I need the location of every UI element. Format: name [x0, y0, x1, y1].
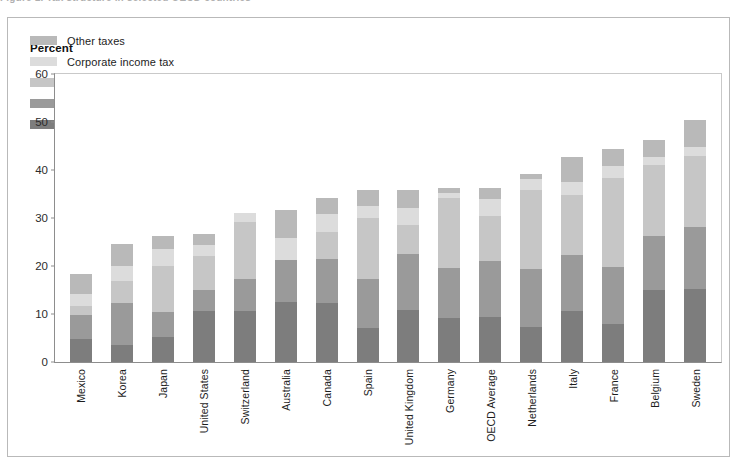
- x-axis-tick-label: Sweden: [690, 369, 702, 408]
- x-axis-label-slot: Sweden: [675, 365, 716, 464]
- stacked-bar[interactable]: [193, 234, 215, 362]
- bar-segment: [275, 210, 297, 238]
- bar-segment: [193, 290, 215, 312]
- bar-segment: [684, 147, 706, 156]
- bar-segment: [152, 266, 174, 312]
- stacked-bar[interactable]: [438, 188, 460, 362]
- bar-segment: [561, 195, 583, 255]
- bar-segment: [520, 327, 542, 362]
- x-axis-label-slot: Switzerland: [224, 365, 265, 464]
- bar-slot: [592, 74, 633, 362]
- figure-frame: Percent Other taxesCorporate income taxS…: [7, 17, 730, 457]
- bar-slot: [674, 74, 715, 362]
- x-axis-tick-label: France: [608, 369, 620, 402]
- stacked-bar[interactable]: [152, 236, 174, 362]
- x-axis-tick-label: OECD Average: [485, 369, 497, 442]
- legend-item: Corporate income tax: [30, 51, 212, 72]
- stacked-bar[interactable]: [275, 210, 297, 362]
- bar-slot: [470, 74, 511, 362]
- x-axis-label-slot: Belgium: [634, 365, 675, 464]
- legend-label: Corporate income tax: [67, 56, 174, 68]
- legend-item: Other taxes: [30, 30, 212, 51]
- bar-slot: [633, 74, 674, 362]
- bar-segment: [316, 198, 338, 214]
- legend-swatch-icon: [30, 99, 57, 108]
- stacked-bar[interactable]: [111, 244, 133, 362]
- x-axis-tick-label: Japan: [157, 369, 169, 398]
- bar-segment: [561, 255, 583, 311]
- bar-segment: [111, 303, 133, 345]
- bar-segment: [643, 157, 665, 166]
- x-axis-labels: MexicoKoreaJapanUnited StatesSwitzerland…: [54, 365, 722, 464]
- bar-segment: [234, 222, 256, 280]
- stacked-bar[interactable]: [70, 274, 92, 362]
- bar-segment: [520, 179, 542, 191]
- bar-segment: [684, 227, 706, 289]
- bar-segment: [111, 244, 133, 266]
- chart-page: Figure 1. Tax structure in selected OECD…: [0, 0, 737, 464]
- bar-slot: [265, 74, 306, 362]
- x-axis-tick-label: Germany: [444, 369, 456, 413]
- bar-segment: [684, 156, 706, 228]
- x-axis-tick-label: Switzerland: [239, 369, 251, 424]
- bar-slot: [306, 74, 347, 362]
- stacked-bar[interactable]: [561, 157, 583, 362]
- stacked-bar[interactable]: [479, 188, 501, 362]
- x-axis-label-slot: Canada: [306, 365, 347, 464]
- bar-segment: [152, 249, 174, 266]
- bar-segment: [520, 190, 542, 269]
- stacked-bar[interactable]: [520, 174, 542, 362]
- plot-area: 0102030405060: [54, 73, 722, 363]
- bar-segment: [357, 279, 379, 328]
- stacked-bar[interactable]: [684, 120, 706, 362]
- bar-segment: [479, 199, 501, 216]
- bar-segment: [397, 225, 419, 254]
- stacked-bar[interactable]: [316, 198, 338, 362]
- bar-segment: [438, 198, 460, 268]
- x-axis-label-slot: Japan: [142, 365, 183, 464]
- x-axis-label-slot: Netherlands: [511, 365, 552, 464]
- bar-segment: [111, 281, 133, 303]
- bar-segment: [275, 302, 297, 362]
- bar-segment: [479, 317, 501, 362]
- stacked-bar[interactable]: [234, 213, 256, 362]
- bar-segment: [234, 279, 256, 310]
- x-axis-label-slot: Italy: [552, 365, 593, 464]
- bar-segment: [602, 166, 624, 179]
- bar-segment: [193, 245, 215, 256]
- bar-group: [55, 74, 721, 362]
- figure-title-text: Figure 1. Tax structure in selected OECD…: [0, 0, 737, 2]
- bar-segment: [316, 214, 338, 231]
- bar-segment: [70, 294, 92, 306]
- stacked-bar[interactable]: [643, 140, 665, 362]
- stacked-bar[interactable]: [602, 149, 624, 362]
- bar-segment: [643, 165, 665, 236]
- bar-slot: [61, 74, 102, 362]
- x-axis-tick-label: Canada: [321, 369, 333, 406]
- bar-slot: [184, 74, 225, 362]
- bar-segment: [397, 254, 419, 310]
- bar-segment: [152, 337, 174, 362]
- bar-segment: [438, 318, 460, 362]
- figure-title-cropped: Figure 1. Tax structure in selected OECD…: [0, 0, 737, 12]
- bar-segment: [152, 312, 174, 338]
- bar-segment: [397, 208, 419, 224]
- x-axis-label-slot: OECD Average: [470, 365, 511, 464]
- x-axis-label-slot: Mexico: [60, 365, 101, 464]
- bar-slot: [511, 74, 552, 362]
- x-axis-tick-label: Italy: [567, 369, 579, 389]
- bar-segment: [234, 311, 256, 362]
- x-axis-tick-label: Netherlands: [526, 369, 538, 427]
- x-axis-tick-label: United Kingdom: [403, 369, 415, 445]
- bar-segment: [111, 345, 133, 362]
- bar-slot: [552, 74, 593, 362]
- stacked-bar[interactable]: [397, 190, 419, 362]
- bar-segment: [602, 267, 624, 324]
- bar-segment: [275, 260, 297, 302]
- bar-segment: [602, 324, 624, 362]
- legend-swatch-icon: [30, 57, 57, 66]
- stacked-bar[interactable]: [357, 190, 379, 362]
- x-axis-tick-label: Spain: [362, 369, 374, 396]
- bar-segment: [684, 289, 706, 362]
- bar-segment: [602, 178, 624, 267]
